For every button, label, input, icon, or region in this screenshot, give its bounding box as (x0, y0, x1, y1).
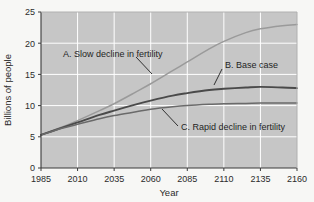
x-tick-label: 2135 (250, 174, 270, 184)
x-tick-label: 2035 (104, 174, 124, 184)
chart-figure: 0510152025 19852010203520602085211021352… (0, 0, 314, 202)
x-axis-tick-labels: 19852010203520602085211021352160 (31, 174, 307, 184)
x-axis-title: Year (159, 187, 178, 198)
y-tick-label: 0 (30, 163, 35, 173)
y-axis-title: Billions of people (2, 54, 13, 126)
y-tick-label: 10 (25, 101, 35, 111)
x-tick-label: 2010 (68, 174, 88, 184)
y-tick-label: 15 (25, 70, 35, 80)
plot-area-background (41, 12, 297, 168)
x-tick-label: 1985 (31, 174, 51, 184)
annotation-series-b: B. Base case (225, 60, 278, 70)
y-tick-label: 20 (25, 39, 35, 49)
y-tick-label: 5 (30, 132, 35, 142)
population-projection-chart: 0510152025 19852010203520602085211021352… (0, 0, 314, 202)
annotation-series-c: C. Rapid decline in fertility (181, 122, 286, 132)
annotation-series-a: A. Slow decline in fertility (63, 49, 163, 59)
y-tick-label: 25 (25, 7, 35, 17)
x-tick-label: 2060 (141, 174, 161, 184)
y-axis-tick-labels: 0510152025 (25, 7, 35, 173)
x-tick-label: 2085 (177, 174, 197, 184)
x-tick-label: 2110 (214, 174, 233, 184)
x-tick-label: 2160 (287, 174, 307, 184)
